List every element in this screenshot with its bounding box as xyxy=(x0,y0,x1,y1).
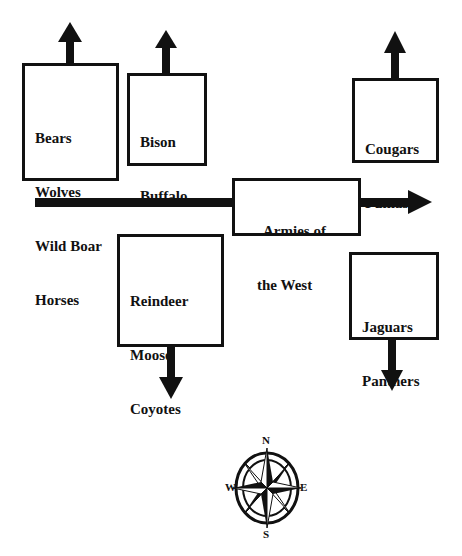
compass-label-e: E xyxy=(300,481,307,493)
box-armies-label: Armies of the West xyxy=(257,186,326,330)
label-line: Reindeer xyxy=(130,292,188,310)
label-line: Buffalo xyxy=(140,187,188,205)
label-line: Panthers xyxy=(362,372,420,390)
arrow-up-bears xyxy=(58,22,82,64)
compass-rose-icon xyxy=(233,448,301,528)
label-line: Pumas xyxy=(365,194,419,212)
arrow-up-bison xyxy=(155,30,177,74)
compass-label-n: N xyxy=(262,434,270,446)
box-bears-label: Bears Wolves Wild Boar Horses xyxy=(35,93,102,345)
box-armies: Armies of the West xyxy=(232,178,361,236)
arrow-up-cougars xyxy=(384,31,406,79)
box-jaguars: Jaguars Panthers xyxy=(349,252,439,340)
box-reindeer-label: Reindeer Moose Coyotes xyxy=(130,256,188,454)
compass-label-w: W xyxy=(225,481,236,493)
box-jaguars-label: Jaguars Panthers xyxy=(362,282,420,426)
label-line: Cougars xyxy=(365,140,419,158)
box-bison: Bison Buffalo Cattle xyxy=(127,73,207,166)
label-line: Armies of xyxy=(257,222,326,240)
label-line: the West xyxy=(257,276,326,294)
label-line: Jaguars xyxy=(362,318,420,336)
label-line: Coyotes xyxy=(130,400,188,418)
box-bears: Bears Wolves Wild Boar Horses xyxy=(22,63,119,181)
label-line: Bears xyxy=(35,129,102,147)
label-line: Moose xyxy=(130,346,188,364)
label-line: Wild Boar xyxy=(35,237,102,255)
label-line: Wolves xyxy=(35,183,102,201)
box-cougars: Cougars Pumas xyxy=(352,78,439,163)
label-line: Bison xyxy=(140,133,188,151)
box-cougars-label: Cougars Pumas xyxy=(365,104,419,248)
label-line: Horses xyxy=(35,291,102,309)
box-reindeer: Reindeer Moose Coyotes xyxy=(117,234,224,347)
compass-label-s: S xyxy=(263,528,269,540)
